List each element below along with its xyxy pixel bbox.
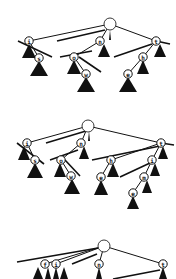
trie-node-e: e [124, 70, 132, 78]
node-label: i [25, 140, 29, 147]
root-node [82, 120, 94, 132]
subtree-triangle-icon [96, 267, 102, 279]
link-line [72, 254, 97, 264]
trie-node-n: n [95, 260, 103, 268]
node-label: w [84, 71, 88, 78]
trie-node-i2: i [148, 156, 156, 164]
trie-node-e: e [97, 173, 105, 181]
node-label: t [154, 38, 158, 45]
trie-node-o: o [57, 156, 65, 164]
node-label: f [43, 261, 47, 268]
trie-node-n: n [96, 37, 104, 45]
trie-node-e2: e [129, 189, 137, 197]
trie-node-m: m [140, 173, 148, 181]
root-node [104, 18, 116, 30]
link-line [79, 57, 101, 72]
node-label: e [126, 71, 130, 78]
subtree-triangle-icon [107, 163, 119, 177]
subtree-triangle-icon [64, 179, 80, 194]
node-label: n [98, 38, 102, 45]
subtree-triangle-icon [159, 267, 167, 279]
trie-node-w: w [82, 70, 90, 78]
link-line [18, 41, 52, 57]
tree-edge [110, 24, 156, 41]
node-label: w [69, 173, 73, 180]
trie-node-o: o [70, 53, 78, 61]
node-label: i [27, 38, 31, 45]
node-label: i [54, 261, 58, 268]
subtree-triangle-icon [150, 163, 160, 176]
tree-edge [104, 246, 163, 264]
node-label: m [142, 174, 146, 181]
subtree-triangle-icon [53, 267, 59, 279]
trie-node-h: h [107, 156, 115, 164]
subtree-triangle-icon [79, 146, 89, 159]
trie-node-t: t [157, 139, 165, 147]
node-label: e [99, 174, 103, 181]
subtree-triangle-icon [45, 267, 51, 279]
link-line [113, 270, 160, 279]
subtree-triangle-icon [94, 180, 108, 195]
trie-node-w: w [67, 172, 75, 180]
subtree-triangle-icon [158, 146, 168, 159]
node-label: e [131, 190, 135, 197]
node-label: t [161, 261, 165, 268]
subtree-triangle-icon [33, 267, 43, 279]
node-label: i [150, 157, 154, 164]
subtree-triangle-icon [77, 77, 95, 92]
trie-node-i: i [23, 139, 31, 147]
subtree-triangle-icon [30, 61, 48, 76]
subtree-triangle-icon [18, 146, 30, 160]
trie-panel-1: isnowthe [18, 18, 170, 92]
root-node [98, 240, 110, 252]
node-label: h [109, 157, 113, 164]
trie-node-h: h [139, 53, 147, 61]
trie-node-i: i [25, 37, 33, 45]
trie-panel-2: isnowtheime [17, 120, 174, 209]
node-label: h [141, 54, 145, 61]
trie-node-n: n [77, 139, 85, 147]
subtree-triangle-icon [154, 44, 166, 57]
subtree-triangle-icon [119, 77, 137, 92]
subtree-triangle-icon [127, 196, 139, 209]
trie-panel-3: fint [17, 240, 167, 279]
tree-edge [88, 126, 161, 143]
subtree-triangle-icon [27, 163, 43, 178]
node-label: n [97, 261, 101, 268]
subtree-triangle-icon [109, 30, 111, 40]
trie-node-i: i [52, 260, 60, 268]
trie-node-s: s [35, 54, 43, 62]
subtree-triangle-icon [142, 180, 152, 193]
node-label: n [79, 140, 83, 147]
node-label: s [37, 55, 41, 62]
trie-node-f: f [41, 260, 49, 268]
node-label: t [159, 140, 163, 147]
subtree-triangle-icon [88, 131, 90, 141]
trie-node-t: t [159, 260, 167, 268]
subtree-triangle-icon [67, 60, 81, 74]
trie-diagram: isnowtheisnowtheimefint [0, 0, 176, 279]
subtree-triangle-icon [22, 44, 36, 58]
node-label: o [72, 54, 76, 61]
subtree-triangle-icon [60, 267, 68, 279]
trie-node-s: s [31, 156, 39, 164]
node-label: s [33, 157, 37, 164]
trie-node-t: t [152, 37, 160, 45]
node-label: o [59, 157, 63, 164]
subtree-triangle-icon [98, 44, 110, 57]
